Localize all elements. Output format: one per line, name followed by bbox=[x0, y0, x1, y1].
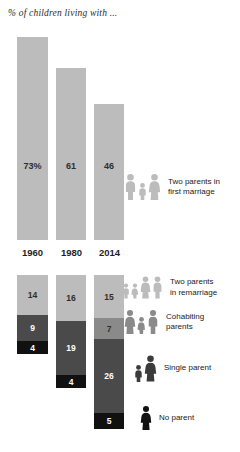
legend-line-2: parents bbox=[166, 322, 193, 331]
top-bar-value-1980: 61 bbox=[56, 161, 86, 171]
family-single-parent-icon bbox=[134, 355, 157, 382]
legend-item-single-parent: Single parent bbox=[134, 355, 211, 382]
segment-value: 15 bbox=[94, 292, 124, 301]
legend-label-two-parents-remarriage: Two parentsin remarriage bbox=[170, 277, 217, 297]
segment-no-parent: 4 bbox=[17, 341, 48, 354]
legend-item-two-parents-first-marriage: Two parents infirst marriage bbox=[124, 174, 220, 200]
segment-no-parent: 5 bbox=[94, 413, 124, 429]
legend-line-1: Cohabiting bbox=[166, 312, 204, 321]
family-cohabiting-parents-icon bbox=[124, 310, 159, 334]
legend-item-two-parents-remarriage: Two parentsin remarriage bbox=[122, 276, 217, 299]
stacked-bar-1960: 14 9 4 bbox=[17, 275, 48, 354]
stacked-bar-1980: 16 19 4 bbox=[56, 275, 86, 388]
page-title: % of children living with ... bbox=[8, 8, 117, 18]
segment-single-parent: 9 bbox=[17, 315, 48, 341]
year-label-1960: 1960 bbox=[14, 247, 51, 258]
segment-two-parents-remarriage: 16 bbox=[56, 275, 86, 321]
segment-single-parent: 26 bbox=[94, 339, 124, 413]
legend-item-no-parent: No parent bbox=[140, 406, 194, 430]
segment-value: 14 bbox=[17, 291, 48, 300]
segment-value: 5 bbox=[94, 417, 124, 426]
top-bar-1980: 61 bbox=[56, 68, 86, 240]
segment-value: 7 bbox=[94, 324, 124, 333]
top-bar-value-1960: 73% bbox=[17, 161, 48, 171]
legend-line-2: first marriage bbox=[168, 187, 215, 196]
segment-cohabiting-parents: 7 bbox=[94, 318, 124, 339]
top-bar-1960: 73% bbox=[17, 37, 48, 240]
legend-line-1: Two parents in bbox=[168, 177, 220, 186]
person-no-parent-icon bbox=[140, 406, 152, 430]
segment-value: 19 bbox=[56, 344, 86, 353]
stacked-bar-2014: 15 7 26 5 bbox=[94, 275, 124, 429]
legend-label-no-parent: No parent bbox=[159, 413, 194, 423]
legend-label-single-parent: Single parent bbox=[164, 363, 211, 373]
segment-two-parents-remarriage: 14 bbox=[17, 275, 48, 315]
infographic-root: % of children living with ... 73% 61 46 … bbox=[0, 0, 240, 452]
segment-value: 4 bbox=[17, 343, 48, 352]
legend-line-2: in remarriage bbox=[170, 288, 217, 297]
family-two-parents-two-children-icon bbox=[122, 276, 163, 299]
family-two-parents-one-child-icon bbox=[124, 174, 161, 200]
legend-line-1: Two parents bbox=[170, 277, 214, 286]
legend-label-cohabiting-parents: Cohabitingparents bbox=[166, 312, 204, 332]
segment-value: 26 bbox=[94, 372, 124, 381]
top-bar-2014: 46 bbox=[94, 104, 124, 240]
top-bar-value-2014: 46 bbox=[94, 161, 124, 171]
year-label-1980: 1980 bbox=[53, 247, 90, 258]
year-label-2014: 2014 bbox=[91, 247, 128, 258]
segment-two-parents-remarriage: 15 bbox=[94, 275, 124, 318]
segment-single-parent: 19 bbox=[56, 321, 86, 375]
segment-no-parent: 4 bbox=[56, 375, 86, 388]
segment-value: 4 bbox=[56, 377, 86, 386]
legend-item-cohabiting-parents: Cohabitingparents bbox=[124, 310, 204, 334]
segment-value: 9 bbox=[17, 324, 48, 333]
legend-label-two-parents-first-marriage: Two parents infirst marriage bbox=[168, 177, 220, 197]
segment-value: 16 bbox=[56, 294, 86, 303]
